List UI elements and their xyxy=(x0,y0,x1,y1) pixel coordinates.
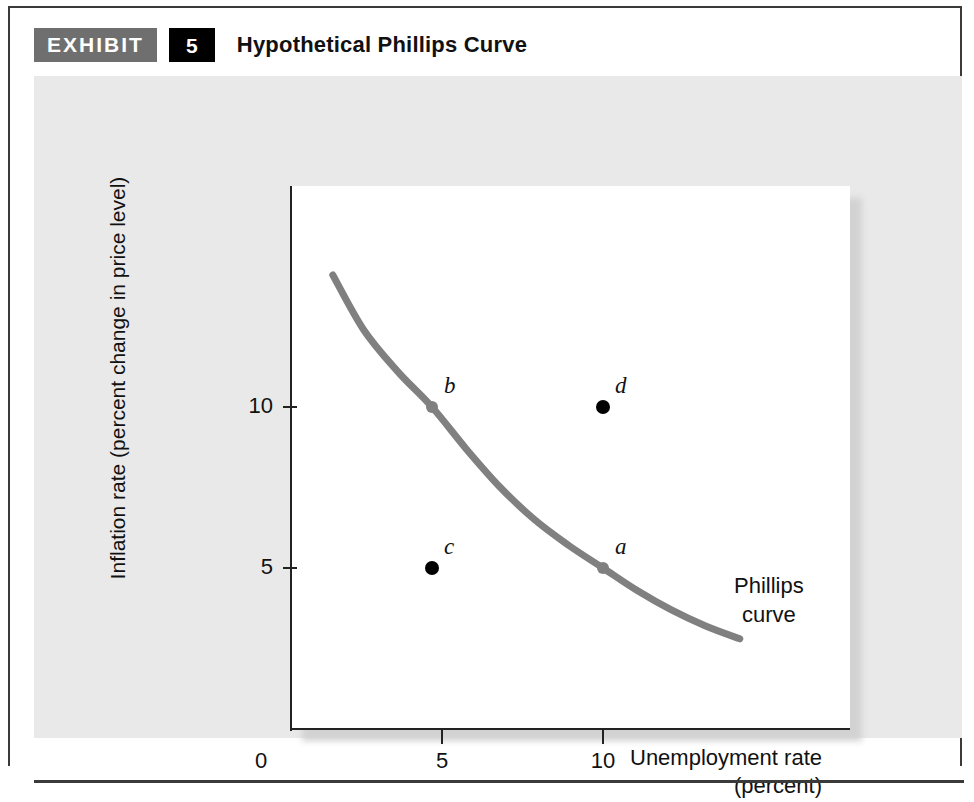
annotation-line2: curve xyxy=(734,601,804,630)
phillips-curve-annotation: Phillips curve xyxy=(734,572,804,629)
x-axis-label-line2: (percent) xyxy=(630,772,822,800)
data-point-b xyxy=(426,401,438,413)
exhibit-title: Hypothetical Phillips Curve xyxy=(237,32,527,58)
y-tick-mark xyxy=(283,567,297,569)
x-tick-label: 5 xyxy=(420,748,464,774)
plot-area xyxy=(290,186,850,729)
data-point-label-c: c xyxy=(444,534,454,560)
exhibit-header: EXHIBIT 5 Hypothetical Phillips Curve xyxy=(34,26,527,64)
x-axis-line xyxy=(290,728,850,730)
data-point-a xyxy=(597,562,609,574)
y-tick-label: 10 xyxy=(229,393,273,419)
x-tick-mark xyxy=(602,730,604,744)
data-point-c xyxy=(425,561,439,575)
x-tick-label: 10 xyxy=(581,748,625,774)
data-point-d xyxy=(596,400,610,414)
data-point-label-d: d xyxy=(615,373,627,399)
x-tick-label: 0 xyxy=(239,748,283,774)
exhibit-badge: EXHIBIT xyxy=(34,28,157,62)
chart-panel: 1050510 Inflation rate (percent change i… xyxy=(34,76,962,738)
x-tick-mark xyxy=(441,730,443,744)
y-tick-mark xyxy=(283,406,297,408)
x-axis-label-line1: Unemployment rate xyxy=(630,744,822,772)
y-axis-line xyxy=(290,186,292,731)
data-point-label-a: a xyxy=(615,534,627,560)
y-axis-label: Inflation rate (percent change in price … xyxy=(106,168,130,588)
exhibit-number-badge: 5 xyxy=(169,28,215,62)
y-tick-label: 5 xyxy=(229,554,273,580)
x-axis-label: Unemployment rate (percent) xyxy=(630,744,822,800)
annotation-line1: Phillips xyxy=(734,572,804,601)
data-point-label-b: b xyxy=(444,373,456,399)
exhibit-bottom-rule xyxy=(34,780,964,783)
exhibit-frame: EXHIBIT 5 Hypothetical Phillips Curve 10… xyxy=(8,6,962,766)
